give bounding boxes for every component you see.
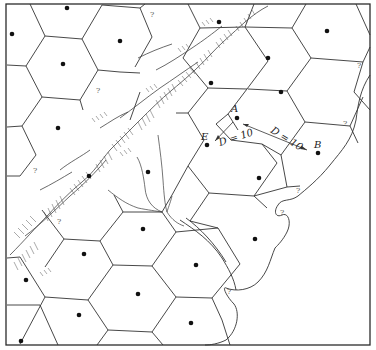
question-mark: ?	[280, 208, 284, 217]
place-dot	[325, 29, 330, 34]
place-dot	[77, 313, 82, 318]
place-dot	[10, 32, 15, 37]
question-mark: ?	[57, 217, 61, 226]
question-mark: ?	[227, 287, 231, 296]
label-b: B	[313, 139, 321, 150]
question-mark: ?	[150, 10, 154, 19]
place-dot	[56, 126, 61, 131]
coastline	[205, 75, 370, 345]
place-dot	[65, 6, 70, 11]
place-dot	[257, 176, 262, 181]
central-places	[10, 6, 330, 344]
place-dot	[146, 170, 151, 175]
place-dot	[209, 81, 214, 86]
place-dot	[194, 263, 199, 268]
place-dot	[141, 227, 146, 232]
place-dot	[82, 252, 87, 257]
question-mark: ?	[343, 119, 347, 128]
question-mark: ?	[96, 86, 100, 95]
place-dot	[279, 90, 284, 95]
place-dot	[136, 292, 141, 297]
market-area-boundaries	[7, 4, 370, 345]
place-dot	[87, 174, 92, 179]
question-mark: ?	[296, 186, 300, 195]
question-mark: ?	[33, 166, 37, 175]
place-dot	[118, 39, 123, 44]
question-mark: ?	[357, 61, 361, 70]
map-frame	[6, 4, 370, 345]
hexagon-market-map: A E B D = 10 D = 10 ? ? ? ? ? ? ? ? ?	[0, 0, 376, 350]
place-dot-b	[316, 151, 321, 156]
place-dot	[19, 339, 24, 344]
label-a: A	[230, 103, 238, 114]
place-dot	[266, 56, 271, 61]
place-dot	[61, 62, 66, 67]
label-distance-ab: D = 10	[268, 124, 305, 153]
label-distance-ea: D = 10	[216, 126, 255, 148]
place-dot	[189, 321, 194, 326]
place-dot	[24, 278, 29, 283]
place-dot-e	[205, 143, 210, 148]
place-dot	[217, 20, 222, 25]
place-dot	[253, 237, 258, 242]
place-dot-a	[235, 116, 240, 121]
label-e: E	[200, 131, 209, 142]
